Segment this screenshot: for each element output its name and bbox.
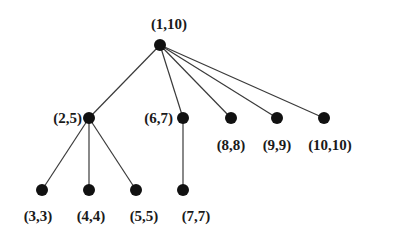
node-n1: [154, 39, 166, 51]
node-n8: [225, 112, 237, 124]
node-n2: [83, 112, 95, 124]
node-n9: [271, 112, 283, 124]
edge-n1-n8: [160, 45, 231, 118]
node-label-n10: (10,10): [308, 137, 352, 154]
node-label-n5: (5,5): [130, 208, 159, 225]
node-label-n6: (6,7): [144, 110, 173, 127]
node-n3: [36, 184, 48, 196]
tree-diagram: (1,10)(2,5)(6,7)(8,8)(9,9)(10,10)(3,3)(4…: [0, 0, 399, 236]
edge-n1-n10: [160, 45, 324, 118]
edge-n1-n6: [160, 45, 183, 118]
edge-n1-n2: [89, 45, 160, 118]
node-n7: [177, 184, 189, 196]
edge-n1-n9: [160, 45, 277, 118]
node-label-n7: (7,7): [182, 208, 211, 225]
node-n6: [177, 112, 189, 124]
node-label-n2: (2,5): [53, 110, 82, 127]
node-n10: [318, 112, 330, 124]
edge-n2-n5: [89, 118, 136, 190]
node-label-n9: (9,9): [263, 137, 292, 154]
node-label-n8: (8,8): [217, 137, 246, 154]
node-label-n3: (3,3): [24, 208, 53, 225]
node-n5: [130, 184, 142, 196]
node-n4: [83, 184, 95, 196]
node-label-n4: (4,4): [77, 208, 106, 225]
edge-n2-n3: [42, 118, 89, 190]
node-label-n1: (1,10): [151, 16, 187, 33]
